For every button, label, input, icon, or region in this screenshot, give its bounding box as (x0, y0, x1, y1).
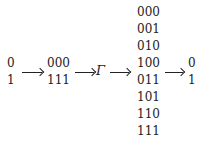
input-bit: 1 (7, 72, 15, 89)
channel-symbol: Γ (96, 63, 105, 78)
received-word: 110 (137, 106, 160, 123)
decoded-bit: 1 (188, 72, 196, 89)
arrow-icon (75, 72, 94, 73)
input-bits: 0 1 (7, 55, 15, 89)
received-word: 000 (137, 4, 160, 21)
arrow-icon (110, 72, 129, 73)
received-word: 001 (137, 21, 160, 38)
received-word: 011 (137, 72, 160, 89)
decoded-bit: 0 (188, 55, 196, 72)
codeword: 111 (47, 72, 70, 89)
codeword: 000 (47, 55, 70, 72)
arrow-icon (165, 72, 183, 73)
decoded-bits: 0 1 (188, 55, 196, 89)
received-word: 010 (137, 38, 160, 55)
encoded-codewords: 000 111 (47, 55, 70, 89)
input-bit: 0 (7, 55, 15, 72)
received-word: 101 (137, 89, 160, 106)
received-word: 100 (137, 55, 160, 72)
received-words: 000 001 010 100 011 101 110 111 (137, 4, 160, 140)
arrow-icon (22, 72, 42, 73)
received-word: 111 (137, 123, 160, 140)
